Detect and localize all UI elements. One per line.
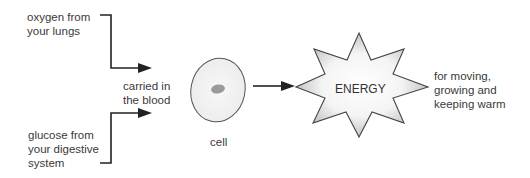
oxygen-label: oxygen from your lungs (27, 10, 90, 38)
label-line: keeping warm (434, 97, 506, 111)
uses-label: for moving, growing and keeping warm (434, 69, 506, 111)
label-line: your digestive (28, 142, 99, 156)
cell-label: cell (210, 135, 227, 149)
glucose-label: glucose from your digestive system (28, 128, 99, 170)
label-line: oxygen from (27, 10, 90, 24)
label-line: system (28, 156, 99, 170)
oxygen-arrow (100, 15, 152, 73)
energy-arrow (253, 81, 295, 91)
label-line: glucose from (28, 128, 99, 142)
label-line: for moving, (434, 69, 506, 83)
label-line: growing and (434, 83, 506, 97)
energy-label: ENERGY (335, 82, 385, 96)
glucose-arrow (100, 108, 152, 163)
cell-icon (185, 53, 251, 127)
label-line: carried in (123, 79, 170, 93)
label-line: your lungs (27, 24, 90, 38)
blood-label: carried in the blood (123, 79, 170, 107)
label-line: the blood (123, 93, 170, 107)
